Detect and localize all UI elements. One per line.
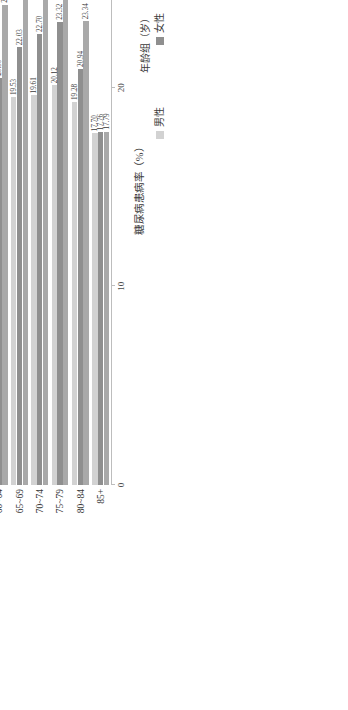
bar-total — [23, 0, 28, 485]
bar-value-label: 19.53 — [10, 79, 18, 95]
bar-female — [37, 34, 42, 485]
bar-female — [17, 47, 22, 485]
bar-value-label: 20.94 — [77, 51, 85, 67]
category-axis-label: 70~74 — [35, 489, 45, 543]
bar-value-label: 17.79 — [103, 113, 111, 129]
bar-value-label: 23.32 — [56, 4, 64, 20]
legend-item-female[interactable]: 女性 — [151, 13, 166, 45]
bar-male — [31, 95, 36, 485]
bar-value-label: 22.70 — [36, 16, 44, 32]
bar-male — [72, 102, 77, 485]
bar-female — [98, 132, 103, 485]
category-axis-label: 60~64 — [0, 489, 4, 543]
bar-value-label: 24.17 — [1, 0, 9, 3]
legend-item-male[interactable]: 男性 — [151, 107, 166, 139]
bar-female — [57, 22, 62, 485]
value-axis-tick-label: 0 — [116, 483, 126, 488]
bar-value-label: 20.12 — [51, 67, 59, 83]
bar-value-label: 19.28 — [71, 84, 79, 100]
bar-total — [2, 5, 7, 485]
bar-total — [83, 21, 88, 485]
category-axis-label: 80~84 — [76, 489, 86, 543]
value-axis-tick-label: 10 — [116, 282, 126, 291]
chart-stage: 0102030 18~2425~2930~3435~3940~4445~4950… — [0, 0, 167, 543]
legend-label: 女性 — [154, 13, 165, 33]
plot-area: 0102030 18~2425~2930~3435~3940~4445~4950… — [0, 0, 167, 543]
value-axis-line — [111, 0, 112, 485]
bar-female — [78, 69, 83, 485]
legend-swatch-icon — [156, 37, 164, 45]
bar-value-label: 19.61 — [30, 77, 38, 93]
legend-swatch-icon — [156, 131, 164, 139]
bar-male — [92, 133, 97, 485]
chart-canvas: 0102030 18~2425~2930~3435~3940~4445~4950… — [0, 0, 348, 710]
bar-value-label: 20.50 — [0, 60, 3, 76]
value-axis-tick-label: 20 — [116, 83, 126, 92]
bar-value-label: 23.34 — [82, 3, 90, 19]
category-axis-label: 85+ — [96, 489, 106, 543]
value-axis-title: 糖尿病患病率（%） — [131, 0, 146, 543]
legend-label: 男性 — [154, 107, 165, 127]
value-axis-tick — [111, 484, 115, 485]
bar-male — [11, 97, 16, 485]
bar-total — [63, 0, 68, 485]
category-axis-label: 65~69 — [15, 489, 25, 543]
value-axis-tick — [111, 285, 115, 286]
category-axis-label: 75~79 — [55, 489, 65, 543]
value-axis-tick — [111, 87, 115, 88]
bar-total — [43, 0, 48, 485]
category-axis-title: 年龄组（岁） — [137, 13, 152, 73]
bar-total — [104, 132, 109, 485]
bar-male — [52, 85, 57, 485]
bar-value-label: 22.03 — [16, 29, 24, 45]
